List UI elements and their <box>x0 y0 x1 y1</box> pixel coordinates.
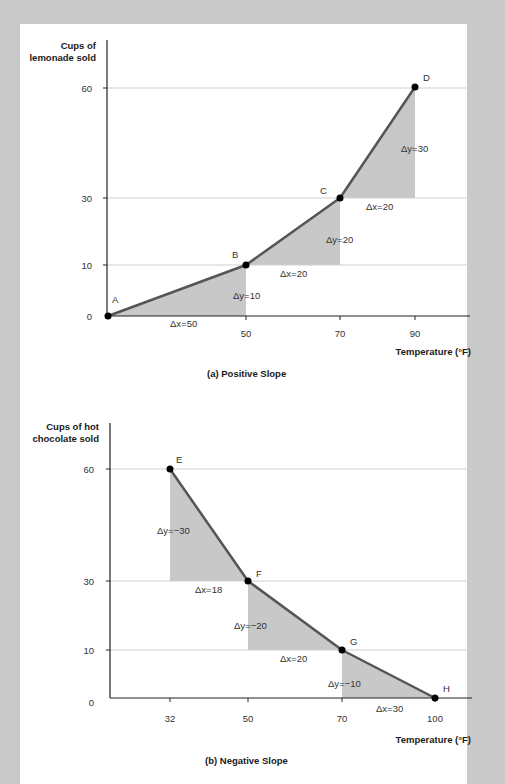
y-axis-title-line1: Cups of hot <box>46 421 100 432</box>
y-tick-60: 60 <box>81 83 92 94</box>
x-tick-50: 50 <box>243 713 254 724</box>
delta-y-ab: Δy=10 <box>233 290 260 301</box>
chart-caption: (a) Positive Slope <box>207 368 286 379</box>
delta-x-ef: Δx=18 <box>195 584 222 595</box>
y-tick-0: 0 <box>87 311 92 322</box>
y-tick-10: 10 <box>83 645 94 656</box>
delta-y-fg: Δy=−20 <box>234 620 267 631</box>
point-h <box>432 695 439 702</box>
chart-negative-slope: Cups of hot chocolate sold 60 30 10 0 32… <box>32 421 472 766</box>
y-tick-30: 30 <box>81 193 92 204</box>
y-tick-0: 0 <box>89 697 94 708</box>
point-label-f: F <box>256 568 262 579</box>
delta-y-cd: Δy=30 <box>401 143 428 154</box>
delta-y-ef: Δy=−30 <box>157 525 190 536</box>
x-tick-100: 100 <box>427 713 443 724</box>
point-g <box>339 647 346 654</box>
point-label-e: E <box>176 454 182 465</box>
x-axis-title: Temperature (°F) <box>396 346 471 357</box>
point-b <box>243 262 250 269</box>
y-tick-10: 10 <box>81 260 92 271</box>
point-e <box>167 466 174 473</box>
y-axis-title-line2: lemonade sold <box>29 52 96 63</box>
delta-y-gh: Δy=−10 <box>328 678 361 689</box>
x-tick-70: 70 <box>337 713 348 724</box>
x-axis-title: Temperature (°F) <box>396 734 471 745</box>
delta-y-bc: Δy=20 <box>326 234 353 245</box>
x-tick-50: 50 <box>241 328 252 339</box>
x-tick-90: 90 <box>410 328 421 339</box>
y-axis-title-line2: chocolate sold <box>32 433 99 444</box>
delta-x-gh: Δx=30 <box>376 703 403 714</box>
point-label-a: A <box>112 294 119 305</box>
x-tick-32: 32 <box>165 713 176 724</box>
y-tick-60: 60 <box>83 464 94 475</box>
point-label-c: C <box>320 185 327 196</box>
point-label-d: D <box>423 72 430 83</box>
point-a <box>105 313 112 320</box>
delta-x-fg: Δx=20 <box>280 653 307 664</box>
delta-x-cd: Δx=20 <box>366 201 393 212</box>
point-c <box>337 195 344 202</box>
delta-x-ab: Δx=50 <box>170 318 197 329</box>
chart-positive-slope: Cups of lemonade sold 60 30 10 0 50 70 9… <box>29 40 471 379</box>
point-f <box>245 578 252 585</box>
point-label-g: G <box>350 636 357 647</box>
point-d <box>412 84 419 91</box>
x-tick-70: 70 <box>335 328 346 339</box>
point-label-h: H <box>443 683 450 694</box>
point-label-b: B <box>232 249 238 260</box>
chart-caption: (b) Negative Slope <box>205 755 288 766</box>
delta-x-bc: Δx=20 <box>280 268 307 279</box>
y-tick-30: 30 <box>83 576 94 587</box>
y-axis-title-line1: Cups of <box>61 40 97 51</box>
